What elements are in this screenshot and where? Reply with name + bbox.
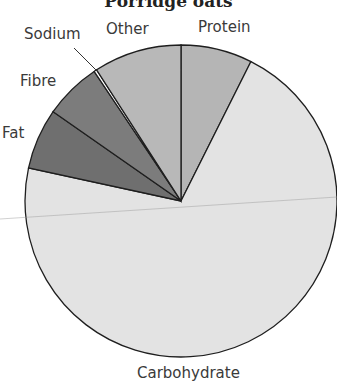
- label-other: Other: [106, 20, 149, 38]
- label-fat: Fat: [2, 124, 24, 142]
- label-fibre: Fibre: [20, 72, 56, 90]
- label-sodium: Sodium: [24, 25, 81, 43]
- label-carbohydrate: Carbohydrate: [137, 364, 240, 382]
- pie-chart: [0, 0, 337, 390]
- sodium-leader-line: [74, 48, 96, 70]
- label-protein: Protein: [198, 18, 251, 36]
